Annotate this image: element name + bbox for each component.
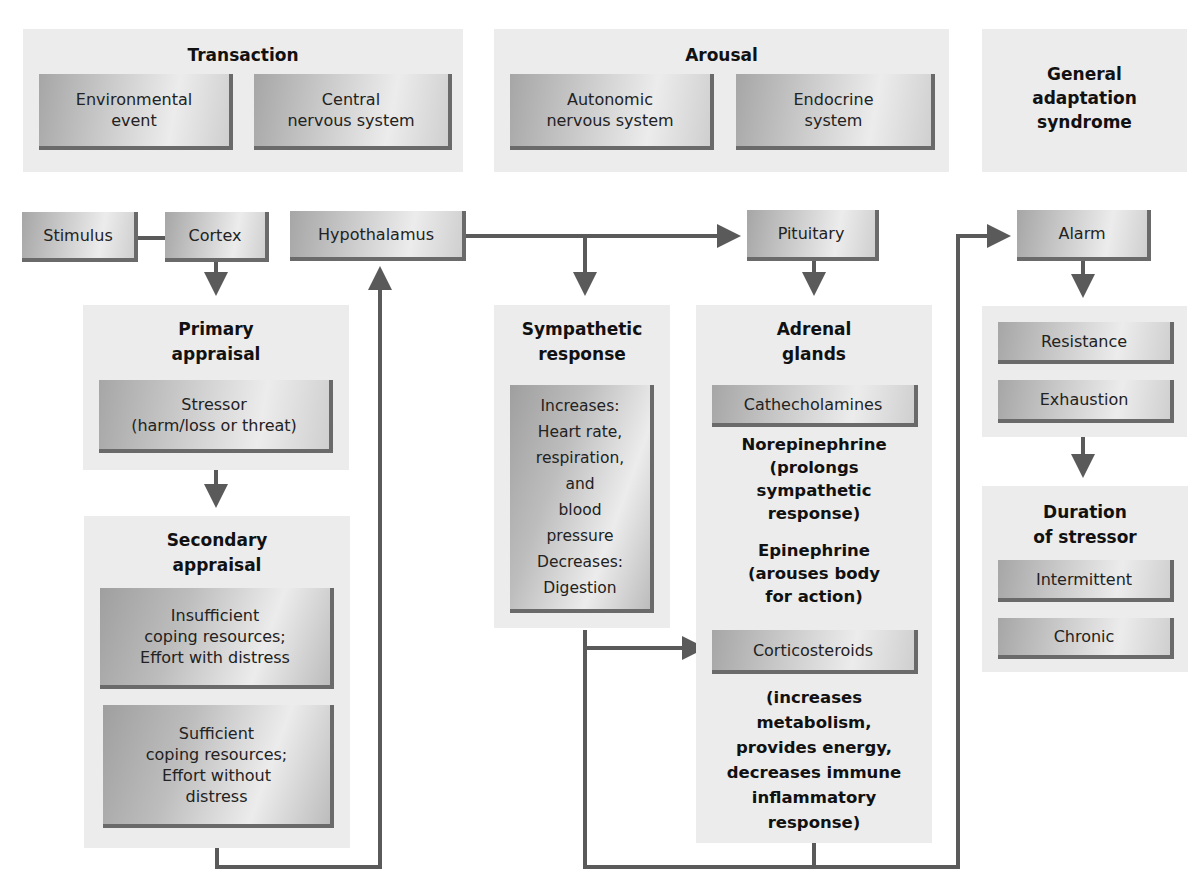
pituitary-node: Pituitary [747, 210, 879, 261]
exhaustion-box: Exhaustion [998, 380, 1174, 423]
primary-appraisal-title: Primary appraisal [83, 317, 349, 367]
sympathetic-response-title: Sympathetic response [494, 317, 670, 367]
secondary-appraisal-panel: Secondary appraisal Insufficient coping … [84, 516, 350, 848]
cortex-node: Cortex [165, 212, 269, 262]
sympathetic-response-panel: Sympathetic response Increases: Heart ra… [494, 305, 670, 628]
resistance-box: Resistance [998, 322, 1174, 364]
hypothalamus-node: Hypothalamus [290, 211, 466, 261]
transaction-panel: Transaction Environmental event Central … [23, 29, 463, 172]
sufficient-coping-box: Sufficient coping resources; Effort with… [103, 705, 334, 828]
adrenal-glands-title: Adrenal glands [696, 317, 932, 367]
insufficient-coping-box: Insufficient coping resources; Effort wi… [100, 588, 334, 689]
stressor-box: Stressor (harm/loss or threat) [99, 380, 333, 453]
gas-panel: General adaptation syndrome [982, 29, 1187, 172]
environmental-event-box: Environmental event [39, 74, 233, 150]
stages-panel: Resistance Exhaustion [982, 306, 1187, 437]
norepinephrine-text: Norepinephrine (prolongs sympathetic res… [696, 433, 932, 525]
intermittent-box: Intermittent [998, 560, 1174, 602]
endocrine-system-box: Endocrine system [736, 74, 935, 150]
primary-appraisal-panel: Primary appraisal Stressor (harm/loss or… [83, 305, 349, 470]
arousal-title: Arousal [494, 44, 949, 66]
duration-panel: Duration of stressor Intermittent Chroni… [982, 486, 1188, 672]
sympathetic-effects-box: Increases: Heart rate, respiration, and … [510, 385, 654, 613]
central-nervous-system-box: Central nervous system [254, 74, 452, 150]
autonomic-nervous-system-box: Autonomic nervous system [510, 74, 714, 150]
epinephrine-text: Epinephrine (arouses body for action) [696, 539, 932, 608]
corticosteroids-effect-text: (increases metabolism, provides energy, … [696, 685, 932, 835]
adrenal-glands-panel: Adrenal glands Cathecholamines Norepinep… [696, 305, 932, 843]
stimulus-node: Stimulus [22, 212, 138, 262]
chronic-box: Chronic [998, 618, 1174, 659]
duration-title: Duration of stressor [982, 500, 1188, 550]
transaction-title: Transaction [23, 44, 463, 66]
cathecholamines-box: Cathecholamines [712, 385, 918, 427]
secondary-appraisal-title: Secondary appraisal [84, 528, 350, 578]
alarm-node: Alarm [1017, 210, 1151, 261]
arousal-panel: Arousal Autonomic nervous system Endocri… [494, 29, 949, 172]
corticosteroids-box: Corticosteroids [712, 630, 918, 674]
gas-title: General adaptation syndrome [982, 62, 1187, 134]
